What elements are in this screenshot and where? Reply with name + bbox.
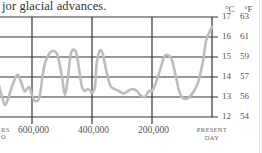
present-day-label-line: PRESENT: [192, 126, 232, 134]
x-tick-200000: 200,000: [138, 125, 169, 135]
x-tick-present-day: PRESENTDAY: [192, 126, 232, 142]
x-axis-partial-label: RS O: [1, 126, 10, 140]
y-tick-celsius: 16: [222, 31, 231, 41]
y-tick-celsius: 15: [222, 51, 231, 61]
y-tick-fahrenheit: 54: [240, 111, 249, 121]
y-tick-fahrenheit: 57: [240, 71, 249, 81]
y-tick-celsius: 17: [222, 11, 231, 21]
chart-grid: [0, 17, 218, 124]
y-tick-fahrenheit: 59: [240, 51, 249, 61]
page-edge-divider: [259, 0, 260, 153]
y-tick-fahrenheit: 61: [240, 31, 249, 41]
x-tick-400000: 400,000: [78, 125, 109, 135]
y-tick-celsius: 14: [222, 71, 231, 81]
y-tick-fahrenheit: 63: [240, 11, 249, 21]
x-tick-600000: 600,000: [18, 125, 49, 135]
y-tick-fahrenheit: 56: [240, 91, 249, 101]
present-day-label-line: DAY: [192, 134, 232, 142]
y-tick-celsius: 12: [222, 111, 231, 121]
y-tick-celsius: 13: [222, 91, 231, 101]
partial-label-line-2: O: [1, 133, 10, 140]
partial-label-line-1: RS: [1, 126, 10, 133]
